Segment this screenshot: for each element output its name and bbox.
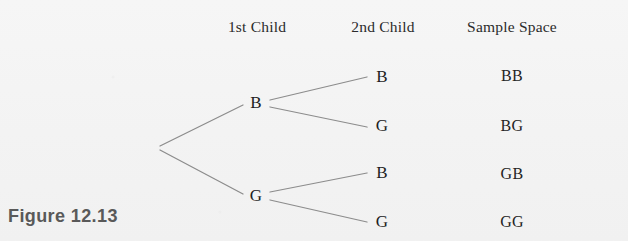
branch-root-to-g bbox=[160, 150, 243, 194]
sample-space-outcome-bb: BB bbox=[501, 67, 523, 85]
figure-caption: Figure 12.13 bbox=[8, 206, 118, 227]
sample-space-outcome-gg: GG bbox=[500, 213, 524, 231]
sample-space-outcome-bg: BG bbox=[501, 117, 524, 135]
tree-node-level1-b: B bbox=[250, 93, 261, 113]
branch-g-to-b bbox=[270, 173, 367, 192]
column-header-2nd-child: 2nd Child bbox=[351, 18, 414, 36]
branch-g-to-g bbox=[270, 200, 367, 222]
tree-branch-layer bbox=[0, 0, 628, 241]
tree-node-level2-b-g: G bbox=[376, 116, 388, 136]
column-header-1st-child: 1st Child bbox=[228, 18, 286, 36]
sample-space-outcome-gb: GB bbox=[501, 165, 524, 183]
branch-b-to-b bbox=[270, 77, 367, 100]
tree-node-level2-g-b: B bbox=[376, 163, 387, 183]
tree-node-level2-g-g: G bbox=[376, 212, 388, 232]
branch-root-to-b bbox=[160, 105, 243, 146]
probability-tree-figure: 1st Child 2nd Child Sample Space B G B G… bbox=[0, 0, 628, 241]
column-header-sample-space: Sample Space bbox=[467, 18, 557, 36]
branch-b-to-g bbox=[270, 107, 367, 127]
tree-node-level2-b-b: B bbox=[376, 67, 387, 87]
tree-node-level1-g: G bbox=[250, 186, 262, 206]
